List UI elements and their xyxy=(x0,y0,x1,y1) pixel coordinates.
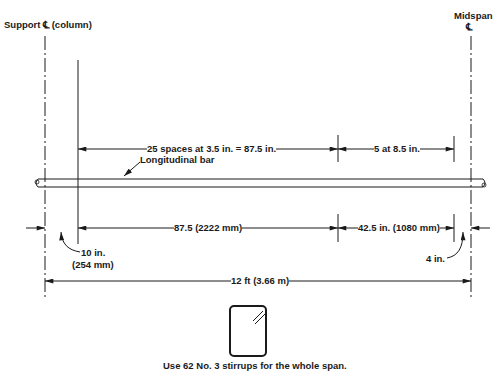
left-offset-leader xyxy=(61,232,80,252)
bottom-dimension-label-1: 87.5 (2222 mm) xyxy=(174,222,242,233)
longitudinal-bar xyxy=(35,179,486,187)
top-spacing-label-1: 25 spaces at 3.5 in. = 87.5 in. xyxy=(147,143,276,154)
top-spacing-label-2: 5 at 8.5 in. xyxy=(374,143,420,154)
stirrup-icon xyxy=(230,306,266,356)
midspan-label: Midspan xyxy=(454,10,493,21)
support-centerline-label: Support ℄ (column) xyxy=(4,19,92,30)
right-offset-leader xyxy=(447,232,463,258)
left-offset-label-metric: (254 mm) xyxy=(72,259,114,270)
bottom-dimension-label-2: 42.5 in. (1080 mm) xyxy=(358,222,440,233)
beam-stirrup-diagram xyxy=(0,0,503,387)
midspan-centerline-symbol: ℄ xyxy=(466,21,472,32)
right-offset-label: 4 in. xyxy=(426,253,445,264)
longitudinal-bar-leader xyxy=(124,162,140,176)
longitudinal-bar-label: Longitudinal bar xyxy=(140,154,214,165)
left-offset-label: 10 in. xyxy=(81,247,105,258)
total-length-label: 12 ft (3.66 m) xyxy=(231,275,289,286)
stirrup-note: Use 62 No. 3 stirrups for the whole span… xyxy=(163,360,347,371)
